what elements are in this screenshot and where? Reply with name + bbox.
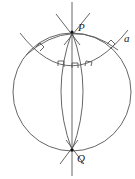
- meridian-right-inner: [72, 32, 83, 150]
- arc-a: [20, 30, 128, 66]
- pole-p-dot: [70, 30, 73, 33]
- label-q: Q: [77, 152, 85, 164]
- label-a: a: [124, 32, 130, 44]
- pole-q-dot: [70, 148, 73, 151]
- sphere-diagram: P Q a: [0, 0, 135, 179]
- label-p: P: [77, 21, 85, 33]
- meridian-left-inner: [61, 32, 72, 150]
